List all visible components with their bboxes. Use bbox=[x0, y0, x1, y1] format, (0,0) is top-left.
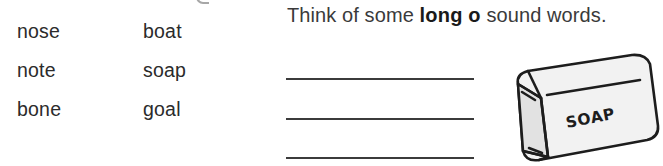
word-item-goal: goal bbox=[143, 100, 181, 120]
answer-line-1[interactable] bbox=[286, 78, 474, 80]
word-item-nose: nose bbox=[17, 22, 60, 42]
word-item-soap: soap bbox=[143, 61, 186, 81]
word-item-boat: boat bbox=[143, 22, 182, 42]
phonics-worksheet-long-o: nose note bone boat soap goal Think of s… bbox=[0, 0, 663, 166]
instruction-text: Think of some long o sound words. bbox=[287, 5, 607, 25]
word-item-note: note bbox=[17, 61, 56, 81]
soap-bar-illustration: SOAP bbox=[492, 52, 663, 166]
word-item-bone: bone bbox=[17, 100, 61, 120]
cropped-text-fragment bbox=[196, 0, 209, 4]
answer-line-3[interactable] bbox=[286, 157, 474, 159]
instruction-text-before: Think of some bbox=[287, 4, 420, 26]
instruction-text-after: sound words. bbox=[481, 4, 607, 26]
instruction-emphasis-long-o: long o bbox=[420, 4, 481, 26]
answer-line-2[interactable] bbox=[286, 118, 474, 120]
